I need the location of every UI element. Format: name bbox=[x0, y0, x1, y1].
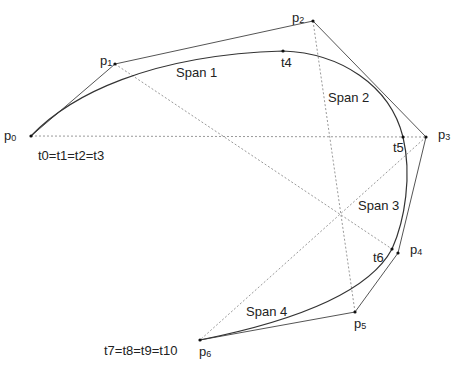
knot-label-4: t7=t8=t9=t10 bbox=[104, 343, 177, 358]
bspline-diagram: p0p1p2p3p4p5p6t0=t1=t2=t3t4t5t6t7=t8=t9=… bbox=[0, 0, 466, 374]
span-4-label: Span 4 bbox=[246, 304, 287, 319]
control-point-label-2: p2 bbox=[292, 10, 304, 25]
construction-lines bbox=[31, 21, 426, 340]
control-point-label-3: p3 bbox=[438, 127, 450, 142]
control-point-label-5: p5 bbox=[354, 316, 366, 331]
knot-label-3: t6 bbox=[373, 250, 384, 265]
control-point-label-0: p0 bbox=[4, 128, 16, 143]
knot-label-1: t4 bbox=[281, 55, 292, 70]
knot-point-1 bbox=[281, 49, 284, 52]
control-point-label-1: p1 bbox=[100, 53, 112, 68]
control-point-1 bbox=[113, 62, 116, 65]
control-polygon bbox=[31, 21, 426, 340]
knot-label-0: t0=t1=t2=t3 bbox=[38, 148, 104, 163]
control-point-3 bbox=[424, 135, 427, 138]
control-point-label-4: p4 bbox=[410, 242, 422, 257]
span-2-label: Span 2 bbox=[328, 90, 369, 105]
control-point-2 bbox=[311, 19, 314, 22]
knot-label-2: t5 bbox=[393, 140, 404, 155]
knot-point-2 bbox=[401, 135, 404, 138]
span-1-label: Span 1 bbox=[176, 65, 217, 80]
span-3-label: Span 3 bbox=[358, 198, 399, 213]
control-point-5 bbox=[353, 310, 356, 313]
control-point-6 bbox=[198, 338, 201, 341]
control-point-0 bbox=[29, 134, 32, 137]
control-point-4 bbox=[396, 251, 399, 254]
knot-point-3 bbox=[390, 247, 393, 250]
control-point-label-6: p6 bbox=[199, 344, 211, 359]
